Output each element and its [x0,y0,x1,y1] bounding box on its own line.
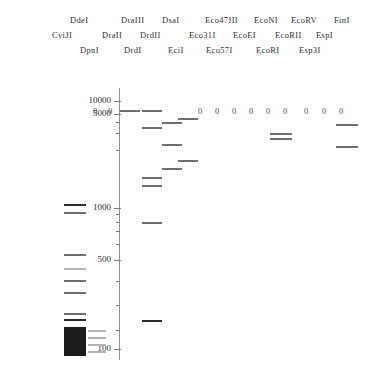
zero-fragment-marker: 0 [108,107,112,116]
gel-band [142,177,162,179]
gel-band [64,313,86,315]
lane-eco31i[interactable]: 0 [213,0,229,375]
gel-smear-block [64,327,86,356]
zero-fragment-marker: 0 [283,107,287,116]
zero-fragment-marker: 0 [304,107,308,116]
lane-ecorii[interactable]: 0 [320,0,336,375]
gel-band [88,337,106,339]
gel-band [270,138,292,140]
gel-band [88,344,106,346]
zero-fragment-marker: 0 [232,107,236,116]
gel-band [64,280,86,282]
gel-band [178,118,198,120]
lane-ecii[interactable]: 0 [196,0,212,375]
lane-eco57i[interactable]: 0 [247,0,263,375]
lane-draiii[interactable] [120,0,140,375]
gel-band [336,124,358,126]
zero-fragment-marker: 0 [249,107,253,116]
zero-fragment-marker: 0 [198,107,202,116]
lane-ddei-cviji[interactable]: 0 [88,0,106,375]
zero-fragment-marker: 0 [322,107,326,116]
gel-band [120,110,140,112]
gel-band [336,146,358,148]
gel-band [142,127,162,129]
ladder-lane-left[interactable] [64,0,86,375]
lane-espi-fini[interactable] [336,0,358,375]
gel-band [64,292,86,294]
gel-band [270,133,292,135]
virtual-gel-figure: DdeIDraIIIDsaIEco47IIIEcoNIEcoRVFinICviJ… [0,0,367,375]
zero-fragment-marker: 0 [215,107,219,116]
zero-fragment-marker: 0 [93,107,97,116]
gel-band [64,268,86,270]
lane-ecori[interactable]: 0 [302,0,318,375]
lane-drdi[interactable] [142,0,162,375]
gel-band [64,204,86,206]
gel-band [142,185,162,187]
lane-eco47iii[interactable]: 0 [230,0,246,375]
gel-band [64,319,86,321]
gel-band [64,212,86,214]
gel-band [178,160,198,162]
gel-band [88,330,106,332]
lane-econi[interactable]: 0 [270,0,292,375]
gel-band [88,351,106,353]
lane-dsai[interactable] [178,0,198,375]
gel-band [64,254,86,256]
